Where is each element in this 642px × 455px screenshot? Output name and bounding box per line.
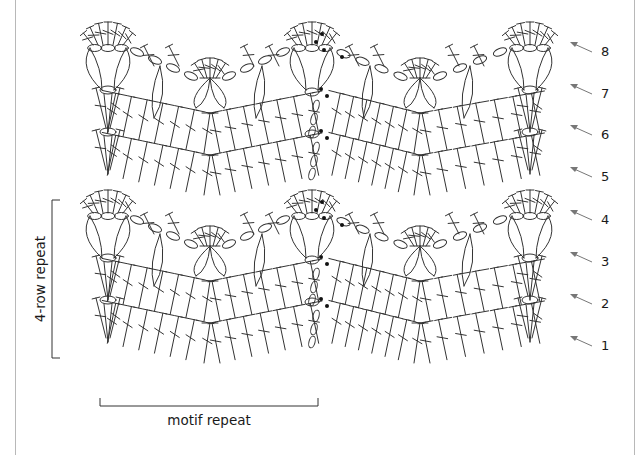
treble-stitch — [439, 320, 447, 360]
start-marker-dot — [325, 94, 329, 98]
chain-stitch — [147, 222, 163, 234]
start-marker-dot — [322, 216, 326, 220]
treble-crossbar — [409, 67, 420, 68]
treble-stitch — [294, 307, 302, 347]
treble-stitch — [414, 155, 420, 195]
chain-dash — [102, 300, 111, 302]
start-marker-dot — [340, 223, 344, 227]
treble-crossbar — [83, 205, 93, 208]
chain-stitch — [308, 125, 317, 138]
row-label-2: 2 — [570, 294, 609, 311]
treble-stitch — [449, 46, 459, 66]
treble-crossbar — [83, 37, 93, 40]
treble-stitch — [243, 148, 251, 188]
treble-stitch — [169, 214, 179, 234]
leaf-cluster — [210, 78, 224, 108]
chain-stitch — [221, 70, 237, 82]
chain-stitch — [432, 238, 448, 250]
treble-stitch — [476, 313, 484, 353]
treble-stitch — [494, 100, 502, 140]
leaf-cluster — [464, 234, 473, 286]
leaf-cluster — [152, 234, 160, 286]
treble-stitch — [294, 139, 302, 179]
treble-stitch — [169, 46, 179, 66]
treble-stitch — [244, 46, 254, 66]
chain-stitch — [393, 70, 409, 82]
row-label-7: 7 — [570, 84, 609, 101]
row-label-4: 4 — [570, 210, 609, 227]
chain-stitch — [308, 167, 317, 180]
treble-top — [165, 44, 172, 48]
leaf-cluster — [196, 246, 210, 276]
chain-stitch — [312, 267, 321, 280]
start-marker-dot — [322, 48, 326, 52]
treble-stitch — [99, 191, 103, 213]
chain-stitch — [257, 222, 273, 234]
treble-crossbar — [373, 223, 384, 224]
treble-top — [470, 44, 477, 48]
treble-top — [140, 212, 147, 216]
treble-crossbar — [330, 34, 335, 43]
treble-stitch — [521, 23, 525, 45]
arrowhead-icon — [570, 294, 578, 299]
treble-top — [502, 199, 508, 204]
treble-crossbar — [119, 199, 127, 207]
treble-top — [401, 61, 408, 65]
treble-top — [284, 31, 290, 36]
treble-stitch — [212, 281, 220, 321]
arrowhead-icon — [570, 42, 578, 47]
treble-stitch — [227, 278, 235, 318]
treble-top — [222, 229, 229, 233]
treble-stitch — [212, 113, 220, 153]
treble-top — [470, 212, 477, 216]
treble-stitch — [212, 323, 220, 363]
chain-stitch — [492, 46, 508, 58]
treble-top — [191, 61, 198, 65]
leaf-cluster — [406, 246, 420, 276]
leaf-cluster — [364, 234, 373, 286]
treble-stitch — [494, 268, 502, 308]
start-marker-dot — [325, 304, 329, 308]
treble-top — [432, 229, 439, 233]
treble-stitch — [277, 268, 285, 308]
chain-stitch — [101, 45, 115, 52]
leaf-cluster — [362, 234, 370, 286]
row-number: 8 — [601, 44, 609, 59]
chain-dash — [329, 132, 336, 134]
arrowhead-icon — [570, 167, 578, 172]
start-marker-dot — [314, 40, 318, 44]
treble-crossbar — [448, 223, 459, 224]
treble-stitch — [457, 274, 465, 314]
treble-top — [333, 31, 339, 36]
treble-crossbar — [505, 37, 515, 40]
treble-stitch — [414, 281, 420, 321]
treble-stitch — [243, 274, 251, 314]
treble-top — [129, 31, 135, 36]
row-number: 6 — [601, 127, 609, 142]
treble-crossbar — [126, 202, 131, 211]
treble-top — [345, 212, 352, 216]
leaf-cluster — [462, 234, 470, 286]
row-label-1: 1 — [570, 336, 609, 353]
treble-stitch — [244, 214, 254, 234]
chain-stitch — [183, 238, 199, 250]
treble-stitch — [422, 155, 430, 195]
leaf-cluster — [254, 66, 262, 118]
treble-top — [284, 199, 290, 204]
chain-stitch — [221, 238, 237, 250]
treble-stitch — [303, 191, 307, 213]
treble-stitch — [422, 113, 430, 153]
treble-top — [129, 199, 135, 204]
treble-stitch — [260, 145, 268, 185]
chain-stitch — [165, 230, 181, 242]
treble-crossbar — [373, 55, 384, 56]
start-marker-dot — [320, 32, 324, 36]
chain-stitch — [129, 214, 145, 226]
chain-stitch — [308, 335, 317, 348]
treble-stitch — [374, 214, 384, 234]
treble-crossbar — [541, 31, 549, 39]
treble-crossbar — [243, 223, 254, 224]
treble-top — [191, 229, 198, 233]
leaf-cluster — [420, 78, 434, 108]
chain-dash — [329, 300, 336, 302]
